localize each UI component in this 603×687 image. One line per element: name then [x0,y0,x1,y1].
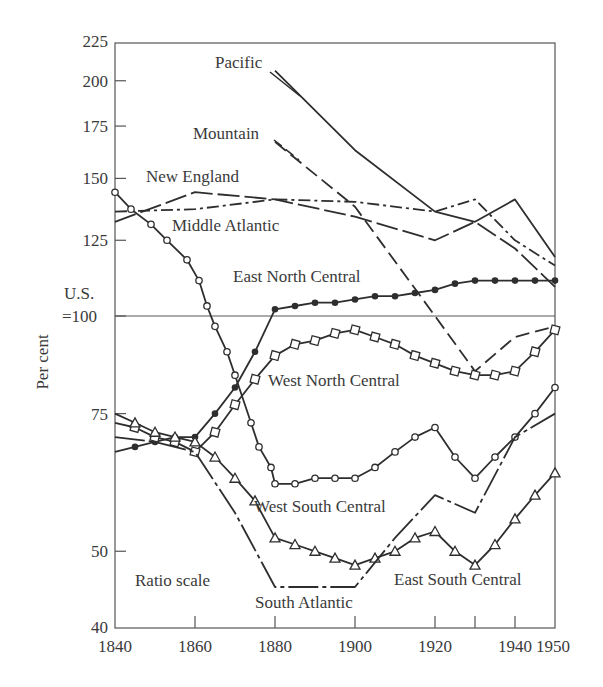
marker-open-square [290,339,300,349]
marker-open-circle [532,410,538,416]
marker-open-triangle [130,418,140,427]
y-tick-label: 125 [83,231,109,250]
marker-filled-circle [372,293,379,300]
us-label-line2: =100 [62,307,97,326]
marker-filled-circle [392,293,399,300]
marker-open-circle [256,444,262,450]
marker-filled-circle [512,277,519,284]
marker-open-circle [224,349,230,355]
label-new-england: New England [146,167,240,186]
marker-filled-circle [552,277,559,284]
marker-open-square [370,332,380,342]
marker-open-circle [492,454,498,460]
marker-open-circle [196,277,202,283]
marker-filled-circle [312,299,319,306]
y-tick-label: 40 [91,618,108,637]
y-tick-label: 50 [91,542,108,561]
marker-open-triangle [270,533,280,542]
label-middle-atlantic: Middle Atlantic [172,216,280,235]
marker-open-circle [248,420,254,426]
marker-open-circle [432,424,438,430]
marker-open-circle [392,449,398,455]
y-axis-title: Per cent [33,334,52,390]
marker-filled-circle [532,277,539,284]
marker-open-circle [232,372,238,378]
marker-filled-circle [432,287,439,294]
label-mountain: Mountain [193,124,260,143]
marker-open-square [550,325,560,335]
y-tick-label: 175 [83,117,109,136]
x-tick-label: 1840 [98,637,132,656]
series-line [275,71,555,257]
us-label-line1: U.S. [64,284,94,303]
marker-open-circle [472,475,478,481]
x-tick-label: 1950 [536,637,570,656]
marker-open-triangle [150,427,160,436]
marker-open-square [430,358,440,368]
y-tick-label: 225 [83,32,109,51]
y-tick-label: 200 [83,72,109,91]
marker-open-square [490,370,500,380]
marker-open-square [470,370,480,380]
marker-open-triangle [430,526,440,535]
marker-open-circle [272,481,278,487]
marker-filled-circle [492,277,499,284]
marker-open-square [330,329,340,339]
marker-open-square [310,336,320,346]
marker-filled-circle [232,384,239,391]
marker-open-circle [292,481,298,487]
label-east-south-central: East South Central [394,570,522,589]
label-east-north-central: East North Central [233,267,361,286]
marker-open-circle [452,454,458,460]
marker-open-triangle [390,546,400,555]
marker-open-square [510,366,520,376]
y-axis: 405075125150175200225 [83,32,127,637]
marker-open-square [530,347,540,357]
marker-open-circle [112,189,118,195]
series-east-north-central [115,277,558,452]
marker-open-circle [312,475,318,481]
marker-open-square [210,427,220,437]
marker-filled-circle [272,306,279,313]
label-south-atlantic: South Atlantic [255,593,353,612]
marker-open-circle [268,464,274,470]
marker-open-triangle [550,468,560,477]
mountain-leader [274,140,299,160]
y-tick-label: 75 [91,405,108,424]
marker-open-square [450,366,460,376]
x-tick-label: 1880 [258,637,292,656]
marker-open-circle [128,206,134,212]
x-tick-label: 1920 [418,637,452,656]
marker-open-circle [184,257,190,263]
marker-open-circle [412,434,418,440]
pacific-leader [270,72,300,96]
marker-filled-circle [452,280,459,287]
x-axis: 1840186018801900192019401950 [98,616,570,656]
marker-open-circle [204,303,210,309]
marker-filled-circle [412,290,419,297]
marker-filled-circle [132,444,139,451]
ratio-scale-note: Ratio scale [135,571,210,590]
marker-filled-circle [352,296,359,303]
marker-open-square [410,351,420,361]
x-tick-label: 1860 [178,637,212,656]
marker-filled-circle [252,348,259,355]
label-west-south-central: West South Central [254,497,386,516]
marker-open-circle [332,475,338,481]
label-pacific: Pacific [215,53,263,72]
marker-open-square [390,339,400,349]
marker-open-circle [212,323,218,329]
marker-open-square [250,374,260,384]
marker-open-circle [164,237,170,243]
marker-filled-circle [292,303,299,310]
x-tick-label: 1940 [498,637,532,656]
label-west-north-central: West North Central [268,371,400,390]
marker-open-square [270,351,280,361]
marker-open-square [230,400,240,410]
marker-open-circle [148,221,154,227]
marker-open-square [350,325,360,335]
marker-open-circle [552,384,558,390]
series-line [115,281,555,452]
marker-filled-circle [472,277,479,284]
y-tick-label: 150 [83,169,109,188]
